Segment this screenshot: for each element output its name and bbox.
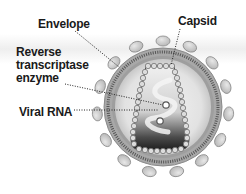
label-envelope: Envelope [38,18,90,31]
label-capsid: Capsid [178,15,217,28]
label-line: enzyme [16,72,89,85]
enzyme-marker-2 [157,118,163,124]
virus-diagram: Envelope Capsid Reverse transcriptase en… [0,0,246,194]
virus-illustration [0,0,246,194]
label-reverse-transcriptase: Reverse transcriptase enzyme [16,46,89,85]
reverse-transcriptase-marker [163,102,169,108]
label-viral-rna: Viral RNA [19,106,72,119]
